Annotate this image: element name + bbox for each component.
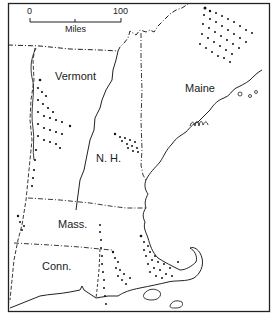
conn-coast bbox=[10, 286, 118, 308]
border-mass-conn bbox=[14, 243, 112, 250]
dots-nh bbox=[114, 133, 139, 153]
state-label-maine: Maine bbox=[185, 82, 215, 94]
new-england-map: 0 100 Miles Vermont Maine N. H. Mass. Co… bbox=[0, 0, 274, 320]
state-label-nh: N. H. bbox=[96, 152, 121, 164]
state-label-mass: Mass. bbox=[58, 218, 87, 230]
border-nh-maine bbox=[141, 33, 146, 180]
dots-se-mass bbox=[140, 235, 179, 279]
state-label-vermont: Vermont bbox=[55, 70, 96, 82]
state-label-conn: Conn. bbox=[42, 260, 71, 272]
dots-ri bbox=[112, 251, 131, 285]
scale-bar bbox=[30, 18, 121, 22]
scale-max-label: 100 bbox=[113, 6, 128, 16]
dots-vermont bbox=[31, 79, 71, 187]
dots-maine-north bbox=[199, 7, 253, 64]
border-canada bbox=[8, 4, 188, 51]
map-drawing bbox=[0, 0, 274, 320]
border-north-mass bbox=[28, 198, 146, 208]
scale-unit-label: Miles bbox=[65, 24, 86, 34]
scale-min-label: 0 bbox=[27, 6, 32, 16]
dots-ri-border bbox=[99, 224, 107, 305]
mass-coast bbox=[118, 238, 203, 296]
